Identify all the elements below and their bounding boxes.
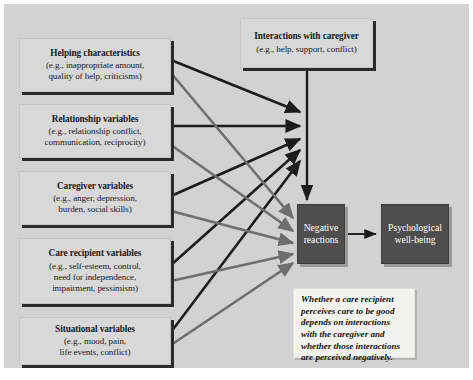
box-title: Relationship variables (52, 114, 138, 125)
diagram-figure: Helping characteristics (e.g., inappropr… (0, 0, 473, 380)
outcome-label: Psychological well-being (388, 222, 442, 247)
box-title: Situational variables (55, 324, 135, 335)
outcome-label: Negative reactions (304, 222, 339, 247)
box-interactions-with-caregiver[interactable]: Interactions with caregiver (e.g., help,… (240, 18, 373, 68)
box-negative-reactions[interactable]: Negative reactions (297, 204, 345, 264)
box-title: Helping characteristics (50, 48, 139, 59)
box-psychological-well-being[interactable]: Psychological well-being (381, 204, 449, 264)
box-helping-characteristics[interactable]: Helping characteristics (e.g., inappropr… (19, 38, 171, 92)
box-relationship-variables[interactable]: Relationship variables (e.g., relationsh… (19, 104, 171, 158)
box-caregiver-variables[interactable]: Caregiver variables (e.g., anger, depres… (19, 171, 171, 225)
box-care-recipient-variables[interactable]: Care recipient variables (e.g., self-est… (19, 238, 171, 304)
box-examples: (e.g., self-esteem, control, need for in… (49, 261, 141, 294)
box-title: Care recipient variables (49, 248, 142, 259)
box-examples: (e.g., help, support, conflict) (256, 44, 356, 55)
box-examples: (e.g., relationship conflict, communicat… (45, 126, 146, 148)
box-title: Interactions with caregiver (254, 31, 359, 42)
box-situational-variables[interactable]: Situational variables (e.g., mood, pain,… (19, 317, 171, 365)
box-examples: (e.g., mood, pain, life events, conflict… (60, 336, 131, 358)
interpretation-note: Whether a care recipient perceives care … (293, 288, 415, 358)
box-title: Caregiver variables (57, 181, 133, 192)
box-examples: (e.g., anger, depression, burden, social… (53, 193, 137, 215)
box-examples: (e.g., inappropriate amount, quality of … (46, 60, 144, 82)
